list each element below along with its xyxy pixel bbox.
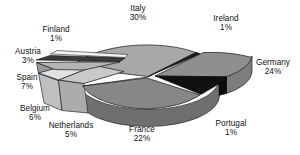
pie-label-finland-name: Finland [32, 25, 80, 34]
pie-label-spain-name: Spain [8, 73, 46, 82]
pie-label-italy-name: Italy [108, 4, 168, 13]
pie-label-italy: Italy 30% [108, 4, 168, 22]
pie-label-belgium-percent: 6% [12, 113, 58, 122]
pie-label-france: France 22% [117, 125, 167, 143]
pie-label-finland: Finland 1% [32, 25, 80, 43]
pie-label-austria: Austria 3% [6, 47, 50, 65]
pie-label-germany-percent: 24% [246, 67, 300, 76]
pie-label-finland-percent: 1% [32, 34, 80, 43]
pie-label-portugal-percent: 1% [203, 128, 259, 137]
pie-label-italy-percent: 30% [108, 13, 168, 22]
pie-label-spain: Spain 7% [8, 73, 46, 91]
pie-label-germany: Germany 24% [246, 58, 300, 76]
pie-label-netherlands-percent: 5% [38, 130, 104, 139]
pie-label-austria-percent: 3% [6, 56, 50, 65]
pie-chart-figure: Italy 30% Ireland 1% Germany 24% Portuga… [0, 0, 300, 155]
pie-label-france-name: France [117, 125, 167, 134]
pie-label-france-percent: 22% [117, 134, 167, 143]
pie-label-portugal: Portugal 1% [203, 119, 259, 137]
pie-label-ireland: Ireland 1% [196, 14, 256, 32]
pie-label-austria-name: Austria [6, 47, 50, 56]
pie-label-spain-percent: 7% [8, 82, 46, 91]
pie-label-netherlands: Netherlands 5% [38, 121, 104, 139]
slice-side-netherlands [59, 80, 89, 113]
pie-label-belgium-name: Belgium [12, 104, 58, 113]
pie-label-belgium: Belgium 6% [12, 104, 58, 122]
pie-label-ireland-percent: 1% [196, 23, 256, 32]
pie-label-ireland-name: Ireland [196, 14, 256, 23]
pie-label-germany-name: Germany [246, 58, 300, 67]
pie-label-portugal-name: Portugal [203, 119, 259, 128]
